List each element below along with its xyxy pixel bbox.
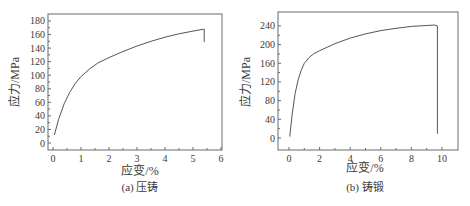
y-tick-label: 20 <box>35 124 45 135</box>
x-tick-label: 8 <box>409 153 414 164</box>
y-tick-label: 120 <box>260 76 275 87</box>
x-axis-label: 应变/% <box>346 160 383 175</box>
x-tick-label: 4 <box>163 153 168 164</box>
y-tick-label: 200 <box>260 39 275 50</box>
y-tick-label: 240 <box>260 20 275 31</box>
x-tick-label: 6 <box>219 153 224 164</box>
y-tick-label: 160 <box>260 58 275 69</box>
x-axis-label: 应变/% <box>121 163 158 178</box>
y-axis-label: 应力/MPa <box>238 56 253 107</box>
x-tick-label: 5 <box>191 153 196 164</box>
y-tick-label: 160 <box>30 29 45 40</box>
y-tick-label: 60 <box>35 97 45 108</box>
figure: 020406080100120140160180 0123456 应力/MPa … <box>0 0 470 206</box>
x-tick-label: 10 <box>437 153 447 164</box>
y-tick-label: 80 <box>265 95 275 106</box>
y-tick-label: 40 <box>265 114 275 125</box>
y-axis-label: 应力/MPa <box>7 56 22 107</box>
stress-strain-curve <box>290 25 438 137</box>
chart-panel-a: 020406080100120140160180 0123456 应力/MPa … <box>7 14 224 194</box>
y-tick-label: 40 <box>35 110 45 121</box>
plot-frame <box>48 14 222 150</box>
y-tick-label: 80 <box>35 83 45 94</box>
y-tick-label: 180 <box>30 15 45 26</box>
plot-frame <box>278 12 458 150</box>
x-tick-label: 0 <box>287 153 292 164</box>
x-tick-label: 2 <box>317 153 322 164</box>
stress-strain-curve <box>54 29 204 135</box>
panel-caption: (b) 铸锻 <box>346 180 384 194</box>
x-tick-label: 2 <box>107 153 112 164</box>
x-tick-label: 1 <box>79 153 84 164</box>
chart-panel-b: 04080120160200240 0246810 应力/MPa 应变/% (b… <box>238 12 458 194</box>
panel-caption: (a) 压铸 <box>122 180 159 194</box>
y-tick-label: 0 <box>40 138 45 149</box>
y-tick-label: 120 <box>30 56 45 67</box>
y-tick-label: 140 <box>30 43 45 54</box>
y-tick-label: 0 <box>270 133 275 144</box>
x-tick-label: 3 <box>135 153 140 164</box>
y-tick-label: 100 <box>30 70 45 81</box>
x-tick-label: 0 <box>51 153 56 164</box>
